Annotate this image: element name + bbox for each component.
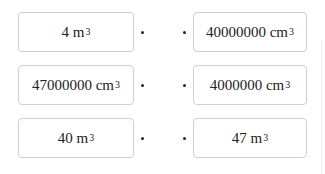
left-card-2[interactable]: 47000000 cm3 [18, 65, 134, 105]
right-card-1[interactable]: 40000000 cm3 [193, 12, 307, 52]
left-connector-dot-1[interactable] [141, 31, 144, 34]
left-card-2-value: 47000000 [32, 77, 92, 94]
left-card-1-unit: m [73, 24, 85, 41]
right-card-3-value: 47 [232, 130, 247, 147]
left-card-2-exponent: 3 [115, 79, 120, 90]
left-card-1-exponent: 3 [85, 26, 90, 37]
left-connector-dot-3[interactable] [141, 137, 144, 140]
right-card-2[interactable]: 4000000 cm3 [193, 65, 307, 105]
left-card-3-unit: m [77, 130, 89, 147]
panel-edge-divider [321, 40, 322, 174]
left-card-1[interactable]: 4 m3 [18, 12, 134, 52]
right-card-1-unit: cm [270, 24, 288, 41]
right-connector-dot-1[interactable] [183, 31, 186, 34]
left-connector-dot-2[interactable] [141, 84, 144, 87]
right-card-1-exponent: 3 [289, 26, 294, 37]
left-card-3-value: 40 [58, 130, 73, 147]
left-card-3[interactable]: 40 m3 [18, 118, 134, 158]
right-connector-dot-3[interactable] [183, 137, 186, 140]
right-card-2-value: 4000000 [210, 77, 263, 94]
left-card-3-exponent: 3 [89, 132, 94, 143]
right-connector-dot-2[interactable] [183, 84, 186, 87]
right-card-1-value: 40000000 [206, 24, 266, 41]
left-card-2-unit: cm [96, 77, 114, 94]
right-card-3-exponent: 3 [263, 132, 268, 143]
right-card-3-unit: m [251, 130, 263, 147]
right-card-2-unit: cm [266, 77, 284, 94]
right-card-3[interactable]: 47 m3 [193, 118, 307, 158]
left-card-1-value: 4 [62, 24, 70, 41]
right-card-2-exponent: 3 [285, 79, 290, 90]
